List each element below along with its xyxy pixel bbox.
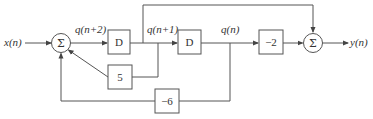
gain-5-label: 5: [117, 71, 123, 83]
delay-block-2: D: [178, 30, 201, 54]
summer-2: Σ: [304, 34, 323, 53]
gain-block-neg6: −6: [155, 89, 179, 113]
signal-label-q-n: q(n): [221, 23, 240, 36]
wire-gain5-to-sum1: [69, 50, 109, 77]
signal-label-q-n-plus-1: q(n+1): [147, 23, 179, 36]
delay-2-label: D: [186, 36, 194, 48]
gain-block-5: 5: [108, 65, 132, 89]
signal-label-q-n-plus-2: q(n+2): [75, 23, 107, 36]
delay-1-label: D: [115, 36, 123, 48]
sigma-icon: Σ: [309, 37, 317, 50]
summer-1: Σ: [52, 34, 71, 53]
delay-block-1: D: [108, 30, 130, 54]
output-signal-label: y(n): [349, 36, 368, 49]
gain-neg6-label: −6: [161, 95, 173, 107]
sigma-icon: Σ: [57, 37, 65, 50]
block-diagram: x(n) Σ q(n+2) D q(n+1) 5 D q(n) −6: [0, 0, 373, 119]
gain-neg2-label: −2: [265, 36, 277, 48]
gain-block-neg2: −2: [259, 30, 283, 54]
wire-q1-to-gain5: [132, 43, 158, 77]
input-signal-label: x(n): [3, 36, 22, 49]
